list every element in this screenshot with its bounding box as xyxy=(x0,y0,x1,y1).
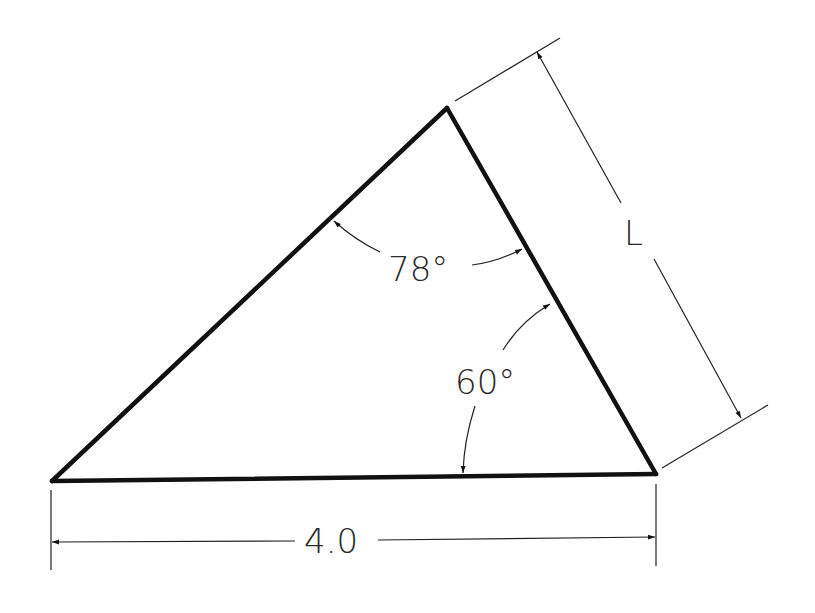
dimension-line-left xyxy=(52,541,295,542)
side-ac-base xyxy=(52,474,656,481)
base-length-label: 4.0 xyxy=(304,521,358,561)
angle-78-label: 78° xyxy=(388,249,448,289)
angle-60-arc-lower xyxy=(463,406,475,473)
side-l-dimension: L xyxy=(455,38,768,468)
angle-78-arc-left xyxy=(334,221,380,252)
angle-60-label: 60° xyxy=(455,362,515,402)
base-dimension: 4.0 xyxy=(51,484,656,570)
side-bc xyxy=(447,108,656,474)
angle-60-arc-upper xyxy=(503,304,550,350)
angle-78-dimension: 78° xyxy=(334,221,522,289)
extension-line-top xyxy=(455,38,560,101)
side-length-label: L xyxy=(624,213,643,253)
extension-line-bottom xyxy=(662,405,768,468)
triangle xyxy=(52,108,656,481)
triangle-diagram: 78° 60° 4.0 L xyxy=(0,0,815,613)
dimension-line-upper xyxy=(537,52,621,203)
dimension-line-right xyxy=(378,537,655,540)
angle-60-dimension: 60° xyxy=(455,304,550,473)
side-ab xyxy=(52,108,447,481)
dimension-line-lower xyxy=(654,259,741,418)
angle-78-arc-right xyxy=(472,249,522,265)
